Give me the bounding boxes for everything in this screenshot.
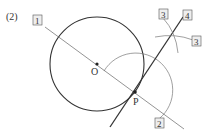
- problem-number: (2): [6, 11, 18, 23]
- svg-text:3: 3: [194, 37, 199, 47]
- svg-text:1: 1: [35, 16, 40, 26]
- label-o: O: [91, 66, 98, 77]
- point-p: [133, 90, 137, 94]
- line-op: [45, 27, 184, 129]
- step-label-3b: 3: [192, 36, 201, 47]
- step-label-3a: 3: [159, 9, 168, 20]
- step-label-1: 1: [33, 15, 42, 26]
- svg-text:3: 3: [161, 10, 166, 20]
- svg-text:2: 2: [157, 119, 162, 129]
- tangent-line: [110, 17, 183, 127]
- step-label-4: 4: [183, 10, 192, 21]
- svg-text:4: 4: [185, 11, 190, 21]
- step-label-2: 2: [155, 118, 164, 129]
- label-p: P: [133, 96, 139, 107]
- construction-diagram: (2) O P 1 2 3 3 4: [0, 0, 205, 132]
